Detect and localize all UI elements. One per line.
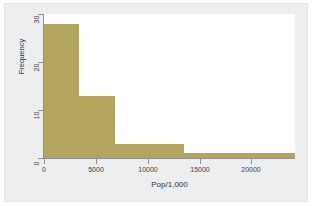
y-axis-tick-label: 20 [33,61,40,75]
x-axis-tick [251,159,252,164]
histogram-bar [44,24,79,158]
plot-region [44,14,295,158]
x-axis-tick [44,159,45,164]
bars-layer [44,14,295,158]
histogram-bar [115,144,184,158]
y-axis-tick-label: 10 [33,109,40,123]
x-axis-tick-label: 20000 [241,166,260,173]
x-axis-tick [96,159,97,164]
x-axis-tick [200,159,201,164]
y-axis-line [43,14,44,159]
y-axis-tick-label: 0 [33,157,40,171]
y-axis-tick-label: 30 [33,13,40,27]
x-axis-tick-label: 0 [42,166,46,173]
x-axis-line [43,158,295,159]
histogram-bar [79,96,114,158]
histogram-figure: 0102030 05000100001500020000 Frequency P… [0,0,312,206]
x-axis-tick-label: 15000 [190,166,209,173]
x-axis-tick-label: 5000 [88,166,104,173]
y-axis-title: Frequency [17,22,26,92]
x-axis-title: Pop/1,000 [44,180,295,189]
x-axis-tick-label: 10000 [138,166,157,173]
x-axis-tick [148,159,149,164]
